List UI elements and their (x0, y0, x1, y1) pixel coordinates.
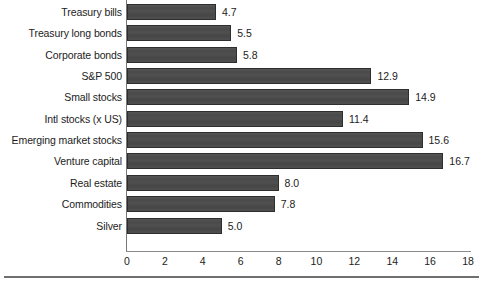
bar (127, 111, 343, 127)
bar (127, 196, 275, 212)
category-label: Treasury bills (0, 6, 122, 18)
category-label: Treasury long bonds (0, 27, 122, 39)
bar-row: 5.5 (127, 25, 468, 41)
bar (127, 47, 237, 63)
bar-value-label: 15.6 (429, 133, 449, 147)
bar-value-label: 14.9 (415, 90, 435, 104)
category-label: Corporate bonds (0, 49, 122, 61)
bar (127, 4, 216, 20)
category-label: Real estate (0, 177, 122, 189)
x-axis-tick-labels: 024681012141618 (126, 255, 483, 271)
category-axis-labels: Treasury billsTreasury long bondsCorpora… (0, 0, 122, 252)
category-label: S&P 500 (0, 70, 122, 82)
bar (127, 132, 423, 148)
bar (127, 89, 409, 105)
bar-value-label: 5.5 (237, 26, 252, 40)
bar (127, 68, 371, 84)
category-label: Small stocks (0, 91, 122, 103)
x-tick-label: 10 (304, 255, 328, 268)
bar-value-label: 4.7 (222, 5, 237, 19)
bar (127, 218, 222, 234)
bar (127, 175, 279, 191)
bar-row: 5.0 (127, 218, 468, 234)
x-axis-line (126, 251, 471, 252)
bar-row: 4.7 (127, 4, 468, 20)
category-label: Silver (0, 220, 122, 232)
category-label: Venture capital (0, 155, 122, 167)
bar (127, 153, 443, 169)
x-tick-label: 6 (229, 255, 253, 268)
x-tick-label: 18 (456, 255, 480, 268)
bar-row: 8.0 (127, 175, 468, 191)
bar-chart: Treasury billsTreasury long bondsCorpora… (0, 0, 483, 283)
category-label: Intl stocks (x US) (0, 113, 122, 125)
bar-value-label: 12.9 (377, 69, 397, 83)
x-tick-label: 4 (191, 255, 215, 268)
bar-value-label: 5.8 (243, 48, 258, 62)
bar-row: 12.9 (127, 68, 468, 84)
plot-area: 4.75.55.812.914.911.415.616.78.07.85.0 (126, 0, 483, 252)
bar (127, 25, 231, 41)
bar-value-label: 16.7 (449, 154, 469, 168)
bar-row: 16.7 (127, 153, 468, 169)
bar-row: 5.8 (127, 47, 468, 63)
x-tick-label: 14 (380, 255, 404, 268)
bar-row: 7.8 (127, 196, 468, 212)
bottom-divider-rule (4, 276, 479, 278)
bar-row: 14.9 (127, 89, 468, 105)
bar-row: 11.4 (127, 111, 468, 127)
bar-value-label: 7.8 (281, 197, 296, 211)
bar-value-label: 5.0 (228, 219, 243, 233)
x-tick-label: 12 (342, 255, 366, 268)
bar-row: 15.6 (127, 132, 468, 148)
bar-value-label: 8.0 (285, 176, 300, 190)
x-tick-label: 8 (267, 255, 291, 268)
category-label: Commodities (0, 198, 122, 210)
x-tick-label: 2 (153, 255, 177, 268)
x-tick-label: 0 (115, 255, 139, 268)
x-tick-label: 16 (418, 255, 442, 268)
category-label: Emerging market stocks (0, 134, 122, 146)
bar-value-label: 11.4 (349, 112, 369, 126)
